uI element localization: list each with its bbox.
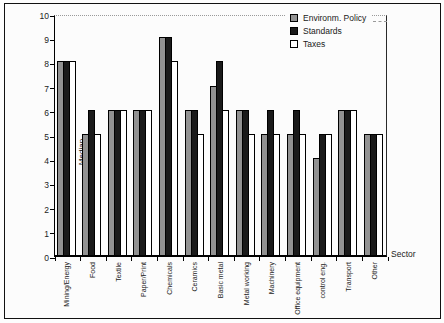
y-tick-label: 9 bbox=[27, 35, 49, 45]
y-tick-label: 6 bbox=[27, 108, 49, 118]
x-category-label: Transport bbox=[344, 262, 353, 320]
x-category-label: Basic metal bbox=[216, 262, 225, 320]
x-axis-tick bbox=[131, 257, 132, 261]
legend-item-env-policy: Environm. Policy bbox=[290, 13, 366, 23]
bar-group bbox=[236, 16, 255, 255]
bar-group bbox=[159, 16, 178, 255]
x-category-label: Food bbox=[88, 262, 97, 320]
bar-group bbox=[261, 16, 280, 255]
y-tick-label: 0 bbox=[27, 253, 49, 263]
figure: Median 012345678910 Sector Environm. Pol… bbox=[0, 0, 444, 323]
y-axis-tick bbox=[50, 64, 55, 65]
x-axis-tick bbox=[285, 257, 286, 261]
y-tick-label: 1 bbox=[27, 229, 49, 239]
x-axis-tick bbox=[259, 257, 260, 261]
bar-taxes bbox=[120, 110, 127, 255]
x-category-label: Metal working bbox=[242, 262, 251, 320]
bar-group bbox=[133, 16, 152, 255]
legend-marker-env-policy bbox=[290, 14, 298, 22]
bar-group bbox=[108, 16, 127, 255]
bar-taxes bbox=[299, 134, 306, 255]
legend: Environm. Policy Standards Taxes bbox=[285, 11, 371, 54]
y-axis-tick bbox=[50, 112, 55, 113]
x-category-label: Other bbox=[370, 262, 379, 320]
y-axis-tick bbox=[50, 161, 55, 162]
bar-taxes bbox=[376, 134, 383, 255]
x-axis-tick bbox=[336, 257, 337, 261]
x-axis-tick bbox=[157, 257, 158, 261]
x-category-label: Machinery bbox=[267, 262, 276, 320]
bar-group bbox=[57, 16, 76, 255]
x-category-label: Textile bbox=[114, 262, 123, 320]
x-category-label: Chemicals bbox=[165, 262, 174, 320]
bar-taxes bbox=[171, 61, 178, 255]
bar-group bbox=[185, 16, 204, 255]
bar-taxes bbox=[145, 110, 152, 255]
y-tick-label: 8 bbox=[27, 59, 49, 69]
bar-taxes bbox=[273, 134, 280, 255]
x-category-label: control eng. bbox=[318, 262, 327, 320]
bar-taxes bbox=[248, 134, 255, 255]
x-category-label: Office equipment bbox=[293, 262, 302, 320]
x-category-label: Paper/Print bbox=[139, 262, 148, 320]
bar-taxes bbox=[350, 110, 357, 255]
x-axis-tick bbox=[311, 257, 312, 261]
y-tick-label: 7 bbox=[27, 84, 49, 94]
legend-item-standards: Standards bbox=[290, 26, 366, 36]
bar-taxes bbox=[325, 134, 332, 255]
y-axis-tick bbox=[50, 88, 55, 89]
bar-group bbox=[210, 16, 229, 255]
x-axis-tick bbox=[234, 257, 235, 261]
x-axis-tick bbox=[388, 257, 389, 261]
bar-taxes bbox=[197, 134, 204, 255]
bar-group bbox=[82, 16, 101, 255]
x-axis-tick bbox=[208, 257, 209, 261]
x-category-label: Ceramics bbox=[190, 262, 199, 320]
y-tick-label: 5 bbox=[27, 132, 49, 142]
y-tick-label: 2 bbox=[27, 205, 49, 215]
y-axis-tick bbox=[50, 209, 55, 210]
y-tick-label: 4 bbox=[27, 156, 49, 166]
x-axis-tick bbox=[362, 257, 363, 261]
y-axis-tick bbox=[50, 185, 55, 186]
legend-marker-standards bbox=[290, 27, 298, 35]
legend-label-taxes: Taxes bbox=[303, 39, 325, 49]
y-axis-tick bbox=[50, 16, 55, 17]
y-axis-tick bbox=[50, 233, 55, 234]
bar-taxes bbox=[222, 110, 229, 255]
y-axis-tick bbox=[50, 137, 55, 138]
x-axis-tick bbox=[183, 257, 184, 261]
y-tick-label: 3 bbox=[27, 180, 49, 190]
y-axis-tick bbox=[50, 40, 55, 41]
x-axis-title: Sector bbox=[391, 249, 416, 259]
bar-taxes bbox=[94, 134, 101, 255]
y-tick-label: 10 bbox=[27, 11, 49, 21]
legend-item-taxes: Taxes bbox=[290, 39, 366, 49]
legend-label-env-policy: Environm. Policy bbox=[303, 13, 366, 23]
legend-label-standards: Standards bbox=[303, 26, 342, 36]
x-axis-tick bbox=[55, 257, 56, 261]
x-axis-tick bbox=[80, 257, 81, 261]
legend-marker-taxes bbox=[290, 40, 298, 48]
x-category-label: Mining/Energy bbox=[62, 262, 71, 320]
x-axis-tick bbox=[106, 257, 107, 261]
bar-taxes bbox=[69, 61, 76, 255]
